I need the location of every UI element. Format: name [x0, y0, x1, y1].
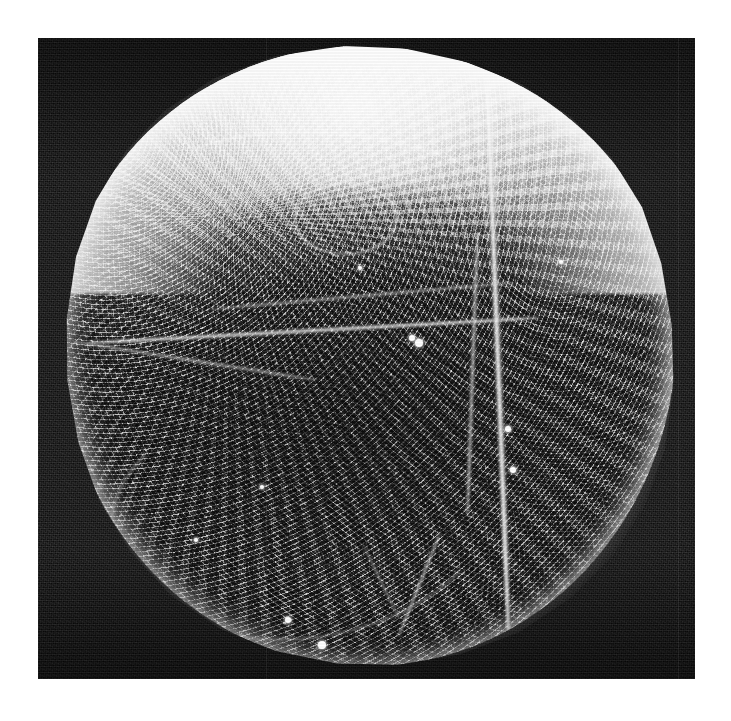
debris-speck [285, 617, 291, 623]
debris-speck [409, 335, 415, 341]
debris-speck [510, 467, 516, 473]
debris-speck [260, 485, 264, 489]
debris-speck [505, 426, 511, 432]
scan-seam-left [266, 38, 267, 679]
specimen-sphere [60, 46, 676, 666]
micrograph-page [0, 0, 731, 721]
debris-speck [358, 266, 362, 270]
scan-seam-right [678, 38, 679, 679]
debris-speck [415, 339, 423, 347]
debris-speck [559, 260, 563, 264]
debris-speck [194, 538, 198, 542]
debris-speck [318, 641, 326, 649]
sem-image-plate [38, 38, 695, 679]
